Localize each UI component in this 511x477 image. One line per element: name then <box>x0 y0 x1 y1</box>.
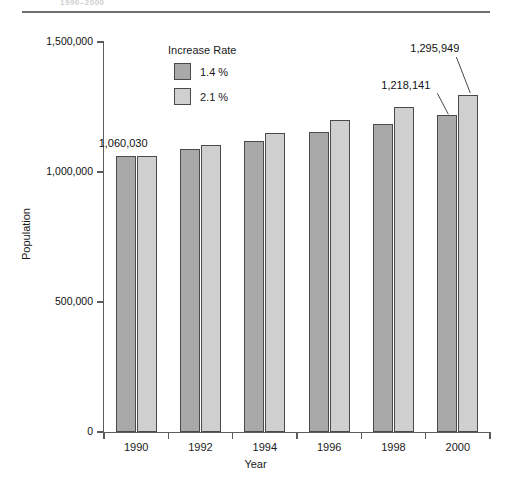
population-bar-chart: 0500,0001,000,0001,500,000 1990199219941… <box>0 0 511 477</box>
data-label-2000-series-1: 1,218,141 <box>381 79 430 91</box>
legend-entries: 1.4 %2.1 % <box>160 63 310 105</box>
legend-entry: 1.4 % <box>174 63 310 80</box>
y-axis-tick-label: 500,000 <box>7 295 93 307</box>
bar <box>137 156 157 432</box>
x-axis-tick-mark <box>489 432 490 439</box>
bar <box>244 141 264 432</box>
x-axis-tick-label: 1998 <box>362 441 426 453</box>
bar <box>373 124 393 432</box>
x-axis-tick-mark <box>168 432 169 439</box>
bar <box>394 107 414 432</box>
bar <box>116 156 136 432</box>
y-axis-tick-label-wrap: 1,500,000 <box>4 35 93 47</box>
bar <box>330 120 350 432</box>
x-axis-tick-mark <box>103 432 104 439</box>
y-axis-tick-mark <box>97 171 104 172</box>
data-label-2000-series-2: 1,295,949 <box>410 42 459 54</box>
x-axis-tick-mark <box>425 432 426 439</box>
x-axis-tick-label: 1992 <box>169 441 233 453</box>
bar <box>437 115 457 432</box>
y-axis-tick-mark <box>97 41 104 42</box>
y-axis-tick-mark <box>97 301 104 302</box>
x-axis-title: Year <box>0 458 511 470</box>
legend-swatch-icon <box>174 88 191 105</box>
y-axis-tick-label-wrap: 500,000 <box>4 295 93 307</box>
bar <box>309 132 329 432</box>
legend-entry-label: 2.1 % <box>200 91 228 103</box>
data-label-1990: 1,060,030 <box>99 137 148 149</box>
x-axis-tick-label: 2000 <box>426 441 490 453</box>
legend-title: Increase Rate <box>168 44 310 56</box>
y-axis-tick-label: 1,000,000 <box>7 165 93 177</box>
legend-entry: 2.1 % <box>174 88 310 105</box>
x-axis-tick-mark <box>232 432 233 439</box>
x-axis-tick-label: 1990 <box>104 441 168 453</box>
bar <box>180 149 200 432</box>
y-axis-title: Population <box>20 184 32 284</box>
legend-entry-label: 1.4 % <box>200 66 228 78</box>
bar <box>458 95 478 432</box>
y-axis-tick-label: 0 <box>7 425 93 437</box>
bar <box>265 133 285 432</box>
bar <box>201 145 221 432</box>
x-axis-tick-mark <box>296 432 297 439</box>
chart-legend: Increase Rate 1.4 %2.1 % <box>160 44 310 113</box>
y-axis-tick-label-wrap: 0 <box>4 425 93 437</box>
x-axis-tick-label: 1996 <box>297 441 361 453</box>
x-axis-tick-label: 1994 <box>233 441 297 453</box>
x-axis-tick-mark <box>361 432 362 439</box>
y-axis-tick-label-wrap: 1,000,000 <box>4 165 93 177</box>
y-axis-line <box>103 42 104 433</box>
legend-swatch-icon <box>174 63 191 80</box>
y-axis-tick-label: 1,500,000 <box>7 35 93 47</box>
